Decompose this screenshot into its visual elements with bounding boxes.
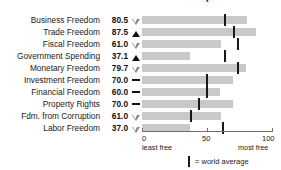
world-average-marker xyxy=(237,38,239,50)
row-value: 61.0 xyxy=(104,110,128,122)
chart-title: FREEDOM SCORES FOR THIS COUNTRY (10 FREE… xyxy=(20,0,235,2)
legend-label: = world average xyxy=(195,157,249,166)
row-value: 87.5 xyxy=(104,26,128,38)
chart-row: Fdm. from Corruption61.0 xyxy=(0,110,281,122)
chart-row: Investment Freedom70.0 xyxy=(0,74,281,86)
row-value: 70.0 xyxy=(104,98,128,110)
value-bar xyxy=(142,52,190,60)
chart-row: Government Spending37.1 xyxy=(0,50,281,62)
row-value: 80.5 xyxy=(104,14,128,26)
axis-caption-least-free: least free xyxy=(142,143,172,152)
row-label: Fiscal Freedom xyxy=(43,38,100,50)
trend-down-icon xyxy=(131,14,141,26)
world-average-tick-icon xyxy=(188,156,190,167)
chart-row: Property Rights70.0 xyxy=(0,98,281,110)
chart-row: Business Freedom80.5 xyxy=(0,14,281,26)
axis-tick-label: 0 xyxy=(142,134,146,143)
value-bar xyxy=(142,76,233,84)
value-bar xyxy=(142,64,246,72)
world-average-marker xyxy=(237,62,239,74)
x-axis: 050100 least free most free = world aver… xyxy=(0,131,281,170)
trend-up-icon xyxy=(131,26,141,38)
trend-down-icon xyxy=(131,38,141,50)
row-value: 61.0 xyxy=(104,38,128,50)
chart-row: Trade Freedom87.5 xyxy=(0,26,281,38)
row-label: Monetary Freedom xyxy=(30,62,100,74)
axis-tick xyxy=(272,128,273,132)
row-value: 79.7 xyxy=(104,62,128,74)
row-label: Government Spending xyxy=(17,50,100,62)
trend-flat-icon xyxy=(131,86,141,98)
row-label: Financial Freedom xyxy=(31,86,100,98)
chart-row: Monetary Freedom79.7 xyxy=(0,62,281,74)
axis-tick-label: 50 xyxy=(202,134,210,143)
row-label: Investment Freedom xyxy=(24,74,100,86)
row-label: Property Rights xyxy=(43,98,100,110)
value-bar xyxy=(142,40,221,48)
axis-tick xyxy=(207,128,208,132)
world-average-marker xyxy=(198,98,200,110)
row-value: 70.0 xyxy=(104,74,128,86)
world-average-marker xyxy=(224,14,226,26)
chart-row: Financial Freedom60.0 xyxy=(0,86,281,98)
row-label: Trade Freedom xyxy=(43,26,100,38)
trend-flat-icon xyxy=(131,74,141,86)
chart-row: Fiscal Freedom61.0 xyxy=(0,38,281,50)
axis-tick xyxy=(142,128,143,132)
trend-down-icon xyxy=(131,110,141,122)
trend-up-icon xyxy=(131,50,141,62)
row-label: Business Freedom xyxy=(31,14,100,26)
axis-caption-most-free: most free xyxy=(238,143,268,152)
trend-down-icon xyxy=(131,62,141,74)
world-average-marker xyxy=(190,110,192,122)
world-average-marker xyxy=(206,86,208,98)
row-value: 37.1 xyxy=(104,50,128,62)
world-average-marker xyxy=(224,50,226,62)
world-average-marker xyxy=(206,74,208,86)
freedom-scores-chart: FREEDOM SCORES FOR THIS COUNTRY (10 FREE… xyxy=(0,0,281,170)
trend-flat-icon xyxy=(131,98,141,110)
value-bar xyxy=(142,16,247,24)
value-bar xyxy=(142,28,256,36)
axis-tick-label: 100 xyxy=(262,134,275,143)
world-average-marker xyxy=(233,26,235,38)
row-value: 60.0 xyxy=(104,86,128,98)
row-label: Fdm. from Corruption xyxy=(21,110,100,122)
value-bar xyxy=(142,112,221,120)
value-bar xyxy=(142,100,233,108)
value-bar xyxy=(142,88,220,96)
